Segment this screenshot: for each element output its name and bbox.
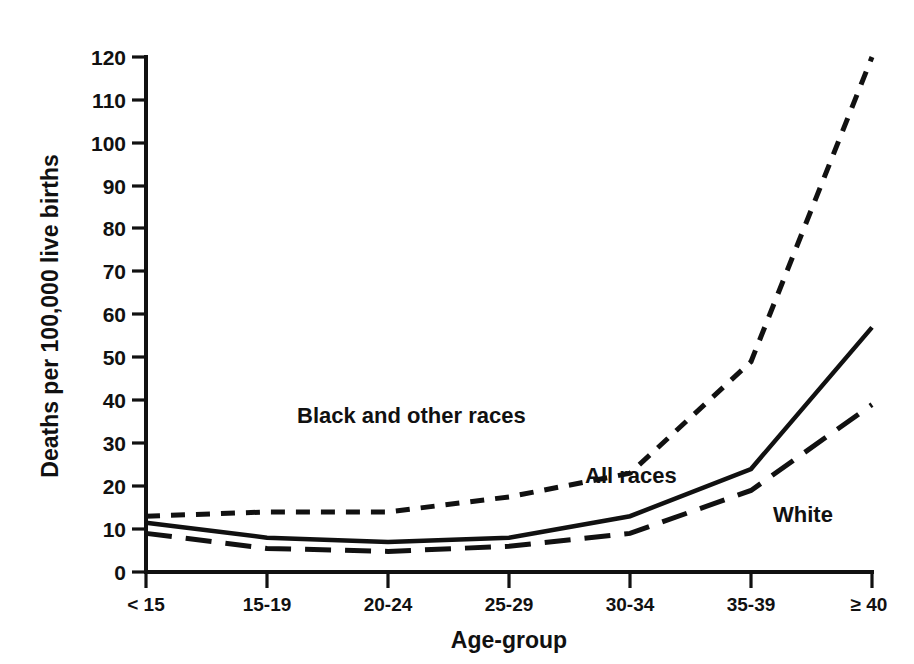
series-label-black-and-other-races: Black and other races <box>297 403 526 428</box>
x-axis-ticks: < 15 15-19 20-24 25-29 30-34 35-39 ≥ 40 <box>127 572 887 615</box>
y-tick-label-30: 30 <box>103 432 126 455</box>
chart-figure: Deaths per 100,000 live births 0 10 20 3… <box>0 0 914 664</box>
x-tick-label-1: 15-19 <box>243 594 292 615</box>
x-tick-label-6: ≥ 40 <box>851 594 888 615</box>
y-tick-label-90: 90 <box>103 175 126 198</box>
y-tick-label-80: 80 <box>103 217 126 240</box>
x-axis-title: Age-group <box>451 627 567 653</box>
y-tick-label-40: 40 <box>103 389 126 412</box>
x-tick-label-5: 35-39 <box>727 594 776 615</box>
series-line-black-and-other-races <box>146 57 872 516</box>
y-tick-label-120: 120 <box>91 46 126 69</box>
y-tick-label-50: 50 <box>103 346 126 369</box>
y-tick-label-0: 0 <box>114 561 126 584</box>
y-tick-label-60: 60 <box>103 303 126 326</box>
x-tick-label-0: < 15 <box>127 594 165 615</box>
y-tick-label-20: 20 <box>103 475 126 498</box>
y-axis-title: Deaths per 100,000 live births <box>37 154 63 477</box>
series-line-all-races <box>146 327 872 542</box>
series-label-white: White <box>773 502 833 527</box>
y-tick-label-70: 70 <box>103 260 126 283</box>
line-chart-svg: Deaths per 100,000 live births 0 10 20 3… <box>0 0 914 664</box>
y-axis-ticks: 0 10 20 30 40 50 60 70 80 90 100 110 <box>91 46 146 584</box>
x-tick-label-4: 30-34 <box>606 594 655 615</box>
y-tick-label-10: 10 <box>103 518 126 541</box>
x-tick-label-3: 25-29 <box>485 594 534 615</box>
y-tick-label-100: 100 <box>91 132 126 155</box>
series-label-all-races: All races <box>585 463 677 488</box>
y-tick-label-110: 110 <box>92 89 126 112</box>
x-tick-label-2: 20-24 <box>364 594 413 615</box>
